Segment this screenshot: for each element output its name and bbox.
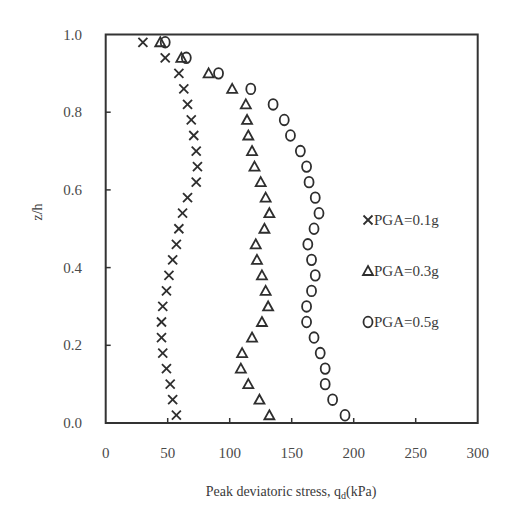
circle-marker [307,255,316,266]
x-axis-title-unit: (kPa) [346,484,377,500]
x-tick-label: 250 [404,445,427,461]
x-marker [189,131,198,140]
y-tick-label: 0.6 [63,182,82,198]
circle-marker [311,192,320,203]
x-marker [168,395,177,404]
triangle-marker [251,239,261,248]
x-marker [157,333,166,342]
series-x [138,38,202,420]
series-circle [161,37,350,421]
x-marker [172,240,181,249]
circle-marker [328,394,337,405]
triangle-marker [247,146,257,155]
legend-item-1: PGA=0.3g [363,263,439,279]
x-icon [364,216,373,225]
x-tick-label: 50 [160,445,175,461]
series-triangle [155,37,274,419]
triangle-marker [254,395,264,404]
circle-icon [364,317,373,328]
x-marker [161,53,170,62]
x-tick-label: 200 [342,445,365,461]
x-marker [157,317,166,326]
triangle-marker [242,115,252,124]
x-tick-label: 0 [102,445,110,461]
y-tick-label: 1.0 [63,27,82,43]
circle-marker [302,161,311,172]
circle-marker [296,146,305,157]
x-axis-title-main: Peak deviatoric stress, q [206,484,341,499]
circle-marker [310,332,319,343]
circle-marker [303,239,312,250]
legend-item-0: PGA=0.1g [364,212,440,228]
x-marker [192,178,201,187]
x-tick-label: 150 [280,445,303,461]
circle-marker [310,223,319,234]
x-marker [183,193,192,202]
triangle-marker [252,255,262,264]
x-marker [174,69,183,78]
circle-marker [305,177,314,188]
triangle-marker [236,364,246,373]
x-axis-title: Peak deviatoric stress, qd(kPa) [206,484,377,501]
x-marker [158,302,167,311]
circle-marker [316,348,325,359]
x-marker [164,271,173,280]
circle-marker [302,317,311,328]
circle-marker [314,208,323,219]
triangle-marker [250,162,260,171]
y-axis-ticks: 0.00.20.40.60.81.0 [63,27,110,432]
data-markers [138,37,349,421]
legend: PGA=0.1g PGA=0.3g PGA=0.5g [363,212,439,330]
x-marker [162,286,171,295]
x-marker [162,364,171,373]
circle-marker [307,286,316,297]
triangle-marker [243,379,253,388]
triangle-marker [227,84,237,93]
chart: 050100150200250300 0.00.20.40.60.81.0 PG… [0,0,518,521]
triangle-marker [259,224,269,233]
y-axis-title: z/h [30,203,45,220]
x-marker [179,84,188,93]
x-marker [187,115,196,124]
circle-marker [214,68,223,79]
circle-marker [286,130,295,141]
x-marker [172,411,181,420]
triangle-marker [243,131,253,140]
triangle-icon [363,266,373,275]
legend-label: PGA=0.3g [374,263,439,279]
x-marker [183,100,192,109]
circle-marker [302,301,311,312]
circle-marker [269,99,278,110]
circle-marker [311,270,320,281]
triangle-marker [261,193,271,202]
x-marker [192,147,201,156]
triangle-marker [257,270,267,279]
triangle-marker [256,177,266,186]
legend-label: PGA=0.5g [374,314,439,330]
legend-label: PGA=0.1g [374,212,439,228]
circle-marker [321,379,330,390]
y-tick-label: 0.8 [63,104,82,120]
triangle-marker [257,317,267,326]
triangle-marker [247,333,257,342]
x-marker [158,349,167,358]
triangle-marker [263,301,273,310]
circle-marker [321,363,330,374]
circle-marker [246,84,255,95]
triangle-marker [241,99,251,108]
triangle-marker [204,68,214,77]
plot-area: 050100150200250300 0.00.20.40.60.81.0 [63,27,489,462]
legend-item-2: PGA=0.5g [364,314,440,330]
triangle-marker [261,286,271,295]
triangle-marker [237,348,247,357]
x-marker [168,255,177,264]
y-tick-label: 0.2 [63,337,82,353]
circle-marker [280,115,289,126]
x-axis-ticks: 050100150200250300 [102,418,489,461]
x-marker [174,224,183,233]
x-marker [166,380,175,389]
x-tick-label: 100 [218,445,241,461]
x-marker [193,162,202,171]
triangle-marker [264,208,274,217]
circle-marker [341,410,350,421]
